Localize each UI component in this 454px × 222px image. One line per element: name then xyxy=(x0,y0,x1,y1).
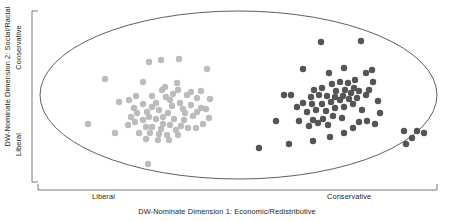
data-point xyxy=(377,110,383,116)
data-point xyxy=(309,101,315,107)
data-point xyxy=(356,119,362,125)
data-point xyxy=(370,79,376,85)
data-point xyxy=(316,92,322,98)
data-point xyxy=(153,116,159,122)
data-point xyxy=(159,87,165,93)
x-axis-tick-liberal: Liberal xyxy=(92,192,115,201)
data-point xyxy=(363,70,369,76)
data-point xyxy=(342,87,348,93)
data-point xyxy=(304,109,310,115)
y-axis-title: DW-Nominate Dimension 2: Social/Racial xyxy=(3,47,12,147)
data-point xyxy=(409,135,415,141)
data-point xyxy=(300,66,306,72)
data-point xyxy=(318,39,324,45)
data-point xyxy=(345,80,351,86)
data-point xyxy=(346,96,352,102)
data-point xyxy=(323,108,329,114)
data-point xyxy=(143,124,149,130)
data-point xyxy=(256,145,262,151)
data-point xyxy=(140,101,146,107)
data-point xyxy=(341,104,347,110)
data-point xyxy=(207,96,213,102)
data-point xyxy=(149,93,155,99)
data-point xyxy=(190,113,196,119)
data-point xyxy=(311,87,317,93)
data-point xyxy=(181,117,187,123)
data-point xyxy=(366,87,372,93)
data-point xyxy=(315,120,321,126)
data-point xyxy=(156,131,162,137)
data-point xyxy=(146,114,152,120)
data-point xyxy=(102,76,108,82)
data-point xyxy=(175,132,181,138)
data-points-layer xyxy=(85,38,427,167)
data-point xyxy=(112,130,118,136)
data-point xyxy=(308,94,314,100)
data-point xyxy=(352,77,358,83)
data-point xyxy=(286,141,292,147)
data-point xyxy=(350,101,356,107)
data-point xyxy=(341,130,347,136)
data-point xyxy=(273,118,279,124)
data-point xyxy=(281,92,287,98)
data-point xyxy=(332,105,338,111)
data-point xyxy=(354,95,360,101)
data-point xyxy=(147,130,153,136)
data-point xyxy=(375,98,381,104)
x-axis-tick-conservative: Conservative xyxy=(327,192,371,201)
data-point xyxy=(319,101,325,107)
y-axis-tick-conservative: Conservative xyxy=(14,18,23,78)
data-point xyxy=(372,121,378,127)
data-point xyxy=(155,137,161,143)
data-point xyxy=(414,128,420,134)
data-point xyxy=(160,114,166,120)
data-point xyxy=(288,92,294,98)
data-point xyxy=(156,107,162,113)
data-point xyxy=(160,121,166,127)
data-point xyxy=(294,104,300,110)
data-point xyxy=(358,38,364,44)
data-point xyxy=(165,110,171,116)
data-point xyxy=(350,125,356,131)
data-point xyxy=(327,134,333,140)
scatter-plot-figure: DW-Nominate Dimension 2: Social/Racial C… xyxy=(0,0,454,222)
data-point xyxy=(204,66,210,72)
data-point xyxy=(125,122,131,128)
data-point xyxy=(158,57,164,63)
data-point xyxy=(85,121,91,127)
data-point xyxy=(177,100,183,106)
data-point xyxy=(328,99,334,105)
data-point xyxy=(339,115,345,121)
data-point xyxy=(341,65,347,71)
data-point xyxy=(348,90,354,96)
data-point xyxy=(198,88,204,94)
data-point xyxy=(325,122,331,128)
data-point xyxy=(421,130,427,136)
data-point xyxy=(136,130,142,136)
data-point xyxy=(167,122,173,128)
x-axis-title: DW-Nominate Dimension 1: Economic/Redist… xyxy=(0,207,454,216)
data-point xyxy=(174,80,180,86)
data-point xyxy=(143,136,149,142)
data-point xyxy=(330,113,336,119)
data-point xyxy=(369,67,375,73)
data-point xyxy=(116,99,122,105)
data-point xyxy=(188,102,194,108)
data-point xyxy=(337,97,343,103)
data-point xyxy=(188,89,194,95)
plot-canvas xyxy=(0,0,454,222)
data-point xyxy=(401,128,407,134)
data-point xyxy=(324,93,330,99)
data-point xyxy=(359,107,365,113)
data-point xyxy=(185,125,191,131)
y-axis-bracket xyxy=(32,11,38,182)
data-point xyxy=(206,115,212,121)
data-point xyxy=(175,87,181,93)
data-point xyxy=(313,107,319,113)
data-point xyxy=(337,79,343,85)
data-point xyxy=(149,124,155,130)
data-point xyxy=(171,116,177,122)
data-point xyxy=(140,117,146,123)
data-point xyxy=(333,88,339,94)
data-point xyxy=(200,121,206,127)
